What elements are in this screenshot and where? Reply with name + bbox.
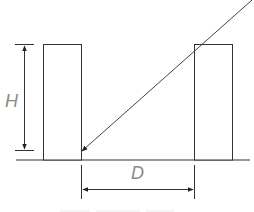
- distance-label: D: [131, 164, 144, 182]
- right-building: [195, 45, 233, 161]
- building-spacing-diagram: [0, 0, 254, 212]
- height-label: H: [5, 92, 18, 110]
- faint-caption: [60, 202, 200, 208]
- left-building: [44, 45, 82, 161]
